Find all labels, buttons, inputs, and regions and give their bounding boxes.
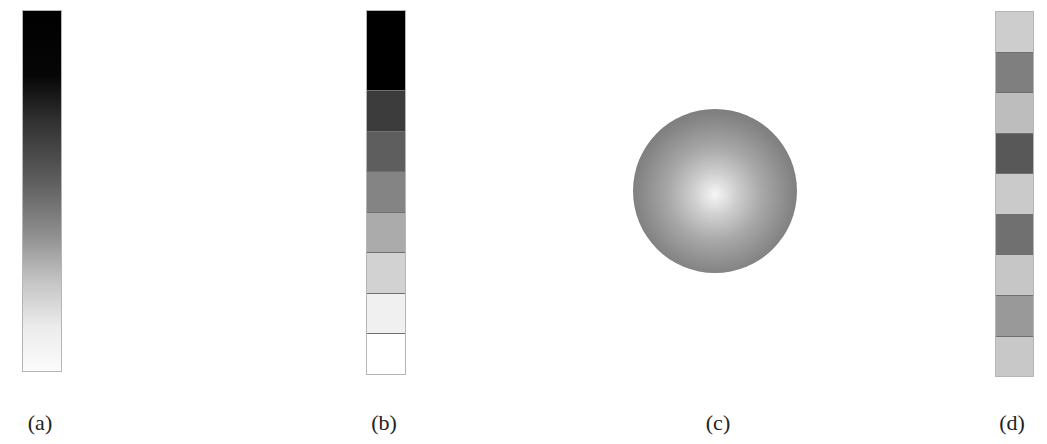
panel-label-d: (d) bbox=[999, 410, 1025, 436]
continuous-gradient-bar bbox=[22, 10, 62, 372]
color-segment bbox=[996, 52, 1033, 93]
color-segment bbox=[996, 12, 1033, 52]
color-segment bbox=[996, 295, 1033, 336]
color-segment bbox=[996, 133, 1033, 174]
panel-label-a: (a) bbox=[28, 410, 52, 436]
color-segment bbox=[367, 11, 405, 90]
panel-label-c: (c) bbox=[706, 410, 730, 436]
color-segment bbox=[367, 131, 405, 172]
color-segment bbox=[996, 214, 1033, 255]
color-segment bbox=[996, 254, 1033, 295]
color-segment bbox=[996, 336, 1033, 377]
discrete-sequential-bar bbox=[366, 10, 406, 375]
color-segment bbox=[996, 173, 1033, 214]
color-segment bbox=[367, 293, 405, 334]
color-segment bbox=[996, 92, 1033, 133]
color-segment bbox=[367, 171, 405, 212]
shaded-sphere bbox=[633, 109, 797, 273]
color-segment bbox=[367, 90, 405, 131]
color-segment bbox=[367, 212, 405, 253]
color-segment bbox=[367, 252, 405, 293]
color-segment bbox=[367, 333, 405, 374]
panel-label-b: (b) bbox=[371, 410, 397, 436]
discrete-qualitative-bar bbox=[995, 11, 1034, 377]
